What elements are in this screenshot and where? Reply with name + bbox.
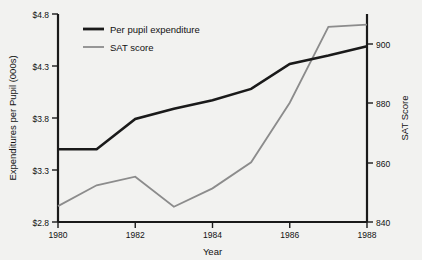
y-axis-title: Expenditures per Pupil (000s) — [7, 55, 18, 180]
left-tick-label-0: $2.8 — [32, 218, 49, 228]
x-tick-label-3: 1986 — [280, 230, 299, 240]
right-tick-label-1: 860 — [376, 159, 390, 169]
per-pupil-expenditure-line — [58, 46, 367, 149]
chart-legend: Per pupil expenditure SAT score — [83, 24, 200, 53]
chart-container: $4.8 $4.3 $3.8 $3.3 $2.8 900 880 860 840… — [0, 0, 422, 260]
x-axis-title: Year — [203, 246, 222, 257]
right-tick-label-0: 840 — [376, 218, 390, 228]
left-tick-label-3: $4.3 — [32, 62, 49, 72]
x-tick-label-0: 1980 — [49, 230, 68, 240]
x-tick-label-4: 1988 — [358, 230, 377, 240]
x-tick-label-1: 1982 — [126, 230, 145, 240]
sat-score-line — [58, 25, 367, 207]
left-tick-label-4: $4.8 — [32, 10, 49, 20]
legend-label-expenditure: Per pupil expenditure — [110, 24, 200, 35]
left-tick-label-1: $3.3 — [32, 166, 49, 176]
y2-axis-title: SAT Score — [399, 95, 410, 140]
right-tick-label-2: 880 — [376, 99, 390, 109]
x-tick-label-2: 1984 — [203, 230, 222, 240]
left-tick-label-2: $3.8 — [32, 114, 49, 124]
right-tick-label-3: 900 — [376, 40, 390, 50]
chart-plot-area: $4.8 $4.3 $3.8 $3.3 $2.8 900 880 860 840… — [0, 0, 422, 260]
legend-label-sat: SAT score — [110, 42, 153, 53]
